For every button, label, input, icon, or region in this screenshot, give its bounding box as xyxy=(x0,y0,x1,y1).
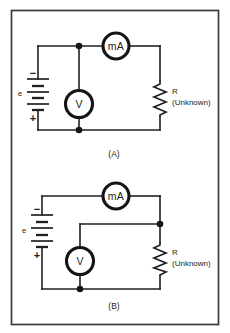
resistor-b-label: R xyxy=(172,248,178,257)
battery-b-positive-sign: + xyxy=(34,249,40,261)
circuit-figure: mA V − + e R (Unknown) (A) xyxy=(0,0,230,333)
voltmeter-b-label: V xyxy=(76,255,83,267)
circuit-a: mA V − + e R (Unknown) (A) xyxy=(18,33,211,159)
ammeter-b-label: mA xyxy=(108,190,124,202)
resistor-b-sublabel: (Unknown) xyxy=(172,259,211,268)
junction-dot-a-bottom xyxy=(76,127,83,134)
resistor-a-symbol xyxy=(154,80,166,117)
caption-b: (B) xyxy=(108,301,120,311)
circuit-diagram-canvas: mA V − + e R (Unknown) (A) xyxy=(0,0,230,333)
caption-a: (A) xyxy=(108,149,120,159)
battery-b xyxy=(31,215,53,247)
junction-dot-b-bottom xyxy=(77,286,84,293)
voltmeter-a-label: V xyxy=(75,98,82,110)
battery-b-emf-label: e xyxy=(22,226,26,235)
battery-b-negative-sign: − xyxy=(34,203,40,215)
battery-a-positive-sign: + xyxy=(30,112,36,124)
battery-a-emf-label: e xyxy=(18,89,22,98)
resistor-a-label: R xyxy=(172,87,178,96)
circuit-b: mA V − + e R (Unknown) (B) xyxy=(22,183,211,311)
ammeter-a-label: mA xyxy=(108,40,124,52)
junction-dot-b-sense xyxy=(157,221,164,228)
battery-a xyxy=(27,79,49,110)
resistor-b-symbol xyxy=(154,242,166,276)
junction-dot-a-top xyxy=(76,43,83,50)
battery-a-negative-sign: − xyxy=(30,67,36,79)
resistor-a-sublabel: (Unknown) xyxy=(172,98,211,107)
